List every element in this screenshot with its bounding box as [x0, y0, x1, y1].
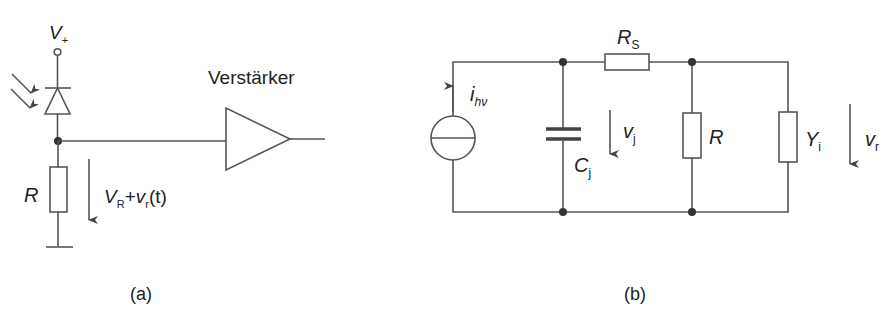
- caption-b: (b): [624, 284, 646, 304]
- amplifier-triangle: [226, 108, 290, 170]
- output-voltage-label-b: vr: [865, 128, 879, 154]
- load-resistor-label: R: [709, 126, 723, 148]
- load-resistor-r: [683, 113, 701, 158]
- junction-capacitor: [546, 129, 581, 139]
- supply-voltage-label: V+: [49, 22, 68, 46]
- capacitor-label: Cj: [574, 154, 591, 180]
- figure-a: V+ R VR+vr(t) Verstärker (a): [11, 22, 325, 304]
- amplifier-label: Verstärker: [208, 67, 295, 88]
- photocurrent-label: ihν: [470, 83, 487, 109]
- photocurrent-source: [431, 116, 475, 160]
- node-bottom-left: [559, 208, 567, 216]
- light-arrows-icon: [11, 74, 31, 108]
- supply-terminal: [54, 49, 61, 56]
- input-admittance-yi: [779, 112, 797, 162]
- output-voltage-label: VR+vr(t): [104, 186, 167, 210]
- series-resistor-label: RS: [617, 26, 639, 52]
- photodiode: [45, 88, 71, 141]
- node-top-left: [559, 58, 567, 66]
- resistor-r: [50, 167, 67, 212]
- node-bottom-right: [688, 208, 696, 216]
- series-resistor-rs: [605, 54, 649, 70]
- figure-b: ihν Cj vj RS R Yi vr (b): [431, 26, 879, 304]
- junction-voltage-label: vj: [623, 120, 636, 146]
- input-admittance-label: Yi: [805, 128, 821, 154]
- node-top-right: [688, 58, 696, 66]
- resistor-r-label: R: [24, 184, 38, 206]
- circuit-diagram: V+ R VR+vr(t) Verstärker (a): [0, 0, 886, 313]
- caption-a: (a): [130, 284, 152, 304]
